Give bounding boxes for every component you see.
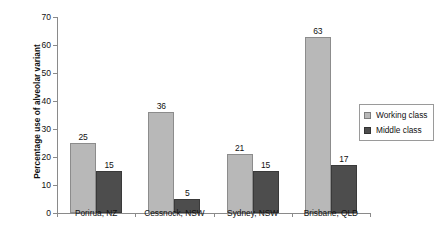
y-axis-tick: [53, 185, 57, 186]
x-axis-tick: [370, 213, 371, 217]
legend-item-working-class: Working class: [364, 109, 428, 121]
bar-value-label: 5: [185, 188, 190, 198]
bar-value-label: 36: [157, 101, 166, 111]
y-axis-tick: [53, 45, 57, 46]
y-axis-tick-label: 70: [42, 12, 51, 22]
plot-area: 010203040506070 251536521156317: [57, 17, 370, 213]
y-axis-title: Percentage use of alveolar variant: [33, 12, 42, 212]
x-axis-category-label: Cessnock, NSW: [144, 208, 204, 218]
y-axis-tick-label: 60: [42, 40, 51, 50]
x-axis-category-label: Sydney, NSW: [227, 208, 278, 218]
y-axis-tick: [53, 157, 57, 158]
legend-label-working-class: Working class: [376, 110, 428, 120]
bar-value-label: 17: [339, 154, 348, 164]
bar-middle-class: 15: [96, 171, 122, 213]
x-axis-tick: [214, 213, 215, 217]
legend-label-middle-class: Middle class: [376, 125, 422, 135]
y-axis-tick-label: 20: [42, 152, 51, 162]
bar-working-class: 25: [70, 143, 96, 213]
y-axis-tick-label: 40: [42, 96, 51, 106]
bar-value-label: 15: [261, 160, 270, 170]
bar-working-class: 21: [227, 154, 253, 213]
bar-middle-class: 15: [253, 171, 279, 213]
y-axis-tick: [53, 101, 57, 102]
y-axis-tick: [53, 17, 57, 18]
y-axis-tick: [53, 73, 57, 74]
bar-middle-class: 17: [331, 165, 357, 213]
x-axis-category-label: Brisbane, QLD: [304, 208, 358, 218]
bar-value-label: 63: [313, 26, 322, 36]
y-axis-tick: [53, 129, 57, 130]
legend-item-middle-class: Middle class: [364, 124, 428, 136]
bar-value-label: 21: [235, 143, 244, 153]
y-axis-tick-label: 0: [46, 208, 51, 218]
chart-legend: Working class Middle class: [359, 104, 434, 141]
y-axis-line: [57, 17, 58, 213]
bar-value-label: 15: [104, 160, 113, 170]
bar-value-label: 25: [78, 132, 87, 142]
x-axis-tick: [135, 213, 136, 217]
x-axis-tick: [57, 213, 58, 217]
bar-chart: Percentage use of alveolar variant 01020…: [0, 0, 448, 250]
x-axis-category-label: Porirua, NZ: [75, 208, 117, 218]
y-axis-tick-label: 30: [42, 124, 51, 134]
y-axis-tick-label: 10: [42, 180, 51, 190]
bar-working-class: 36: [148, 112, 174, 213]
working-class-swatch-icon: [364, 112, 371, 119]
y-axis-tick-label: 50: [42, 68, 51, 78]
bar-working-class: 63: [305, 37, 331, 213]
x-axis-tick: [292, 213, 293, 217]
middle-class-swatch-icon: [364, 127, 371, 134]
